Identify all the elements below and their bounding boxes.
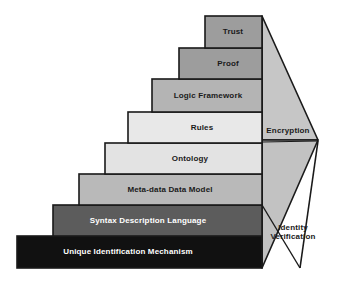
- diagram-canvas: [0, 0, 339, 291]
- step-meta-data-data-model: [79, 174, 262, 205]
- step-proof: [179, 48, 262, 79]
- step-logic-framework: [152, 79, 262, 112]
- step-unique-identification-mechanism: [17, 236, 262, 268]
- step-rules: [128, 112, 262, 143]
- encryption-panel: [262, 16, 318, 140]
- step-trust: [205, 16, 262, 48]
- step-ontology: [105, 143, 262, 174]
- semantic-web-layer-diagram: Trust Proof Logic Framework Rules Ontolo…: [0, 0, 339, 291]
- step-syntax-description-language: [53, 205, 262, 236]
